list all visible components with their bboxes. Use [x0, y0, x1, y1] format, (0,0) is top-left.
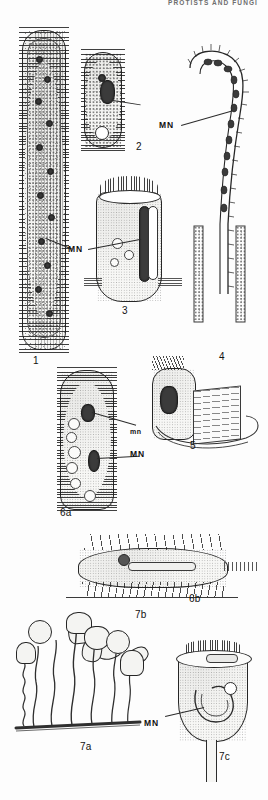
figure-4-hook-shaped-ciliate [186, 44, 266, 334]
fig6a-food-vacuole [68, 446, 81, 459]
figure-number-7a: 7a [80, 742, 92, 752]
fig7a-zooid [16, 642, 36, 664]
fig1-macronucleus-node [38, 238, 45, 245]
fig7a-zooid [28, 620, 52, 644]
fig4-tail-texture [236, 226, 245, 322]
illustration-plate: PROTISTS AND FUNGI MN 1 [0, 0, 268, 800]
fig1-macronucleus-node [47, 168, 54, 175]
fig2-micronucleus [98, 74, 106, 82]
fig7c-contractile-vacuole [224, 682, 237, 695]
figure-number-4: 4 [219, 352, 225, 362]
fig3-contractile-canal [148, 206, 158, 280]
fig6a-food-vacuole [68, 418, 80, 430]
fig1-macronucleus-node [44, 76, 51, 83]
fig1-macronucleus-node [35, 98, 42, 105]
fig5-girdle-loop [150, 408, 266, 450]
fig3-left-cirri [84, 278, 102, 288]
figure-number-5: 5 [190, 441, 196, 451]
fig6b-substrate-line [66, 597, 238, 598]
fig6a-food-vacuole [66, 432, 77, 443]
fig7c-oral-groove [206, 654, 238, 663]
fig6a-food-vacuole [70, 478, 81, 489]
fig1-macronucleus-node [46, 120, 53, 127]
fig3-right-cirri [158, 278, 182, 290]
fig6b-ventral-cirri [82, 582, 224, 598]
fig6a-macronucleus [88, 450, 100, 472]
fig6b-macronucleus-band [128, 562, 196, 571]
label-mn-figure-1: MN [68, 245, 83, 254]
label-mn-macronucleus-figure-6a: MN [130, 450, 145, 459]
fig2-contractile-vacuole [95, 126, 109, 140]
label-mn-micronucleus-figure-6a: mn [130, 428, 142, 435]
fig3-food-vacuole [110, 258, 119, 267]
fig6b-dorsal-bristles [84, 534, 222, 550]
fig3-food-vacuole [124, 250, 134, 260]
label-mn-figure-2: MN [159, 121, 174, 130]
fig5-oral-cilia [152, 356, 184, 370]
fig1-macronucleus-node [35, 286, 42, 293]
figure-number-6a: 6a [60, 508, 72, 518]
fig6a-food-vacuole [66, 462, 78, 474]
fig6b-caudal-cilia [224, 562, 258, 576]
fig1-macronucleus-node [46, 310, 53, 317]
fig1-macronucleus-node [36, 144, 43, 151]
fig1-macronucleus-node [37, 192, 44, 199]
label-mn-figure-7c: MN [144, 719, 159, 728]
fig7c-stalk [206, 740, 217, 782]
figure-number-1: 1 [33, 356, 39, 366]
fig4-tail-texture [194, 226, 203, 322]
running-head: PROTISTS AND FUNGI [0, 0, 268, 7]
figure-number-3: 3 [122, 306, 128, 316]
figure-number-6b: 6b [189, 594, 201, 604]
fig6a-food-vacuole [84, 490, 96, 502]
fig1-endoplasm-granules [28, 39, 60, 337]
fig3-peristome-rim [99, 190, 161, 204]
fig1-macronucleus-node [48, 214, 55, 221]
figure-7a-stalked-colony [14, 612, 146, 740]
figure-number-7c: 7c [219, 752, 230, 762]
figure-number-2: 2 [136, 142, 142, 152]
fig7a-zooid [120, 650, 144, 676]
fig1-macronucleus-node [44, 262, 51, 269]
fig1-macronucleus-node [36, 56, 43, 63]
fig1-endoplasm-outline [27, 38, 61, 338]
